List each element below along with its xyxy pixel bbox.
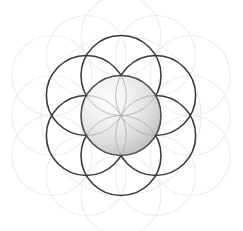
flower-of-life-diagram xyxy=(0,0,243,231)
figure-root xyxy=(0,0,243,231)
